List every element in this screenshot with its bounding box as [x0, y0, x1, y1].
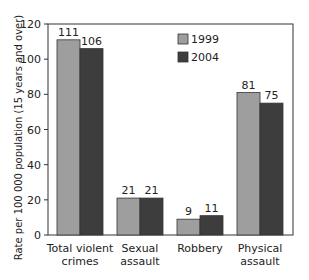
bar-chart: 020406080100120Rate per 100 000 populati… [0, 0, 309, 280]
legend-swatch-2004 [178, 52, 188, 62]
bar-value-label: 75 [265, 89, 279, 102]
bar-2004 [200, 216, 223, 235]
bar-1999 [57, 40, 80, 235]
x-category-label: Total violent [46, 242, 114, 255]
bar-1999 [177, 219, 200, 235]
x-category-label: assault [120, 255, 160, 268]
bar-1999 [237, 93, 260, 235]
x-category-label: assault [240, 255, 280, 268]
bar-value-label: 81 [242, 79, 256, 92]
y-tick-label: 60 [27, 124, 41, 137]
legend-label: 2004 [191, 51, 219, 64]
bar-1999 [117, 198, 140, 235]
x-category-label: crimes [62, 255, 99, 268]
bar-value-label: 106 [81, 35, 102, 48]
bar-2004 [140, 198, 163, 235]
bar-value-label: 21 [122, 184, 136, 197]
legend-swatch-1999 [178, 34, 188, 44]
bar-value-label: 9 [185, 205, 192, 218]
bar-2004 [80, 49, 103, 235]
x-category-label: Sexual [122, 242, 159, 255]
y-tick-label: 80 [27, 88, 41, 101]
y-tick-label: 40 [27, 159, 41, 172]
y-axis-label: Rate per 100 000 population (15 years an… [13, 15, 24, 261]
bar-value-label: 21 [145, 184, 159, 197]
y-tick-label: 20 [27, 194, 41, 207]
bar-2004 [260, 103, 283, 235]
y-tick-label: 0 [34, 229, 41, 242]
bar-value-label: 111 [58, 26, 79, 39]
x-category-label: Robbery [177, 242, 223, 255]
x-category-label: Physical [238, 242, 283, 255]
bar-value-label: 11 [205, 202, 219, 215]
legend-label: 1999 [191, 33, 219, 46]
